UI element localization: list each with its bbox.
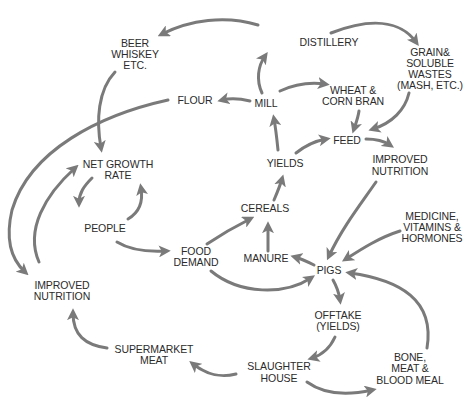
node-wheat-bran: WHEAT &CORN BRAN [322, 84, 384, 107]
node-label-line: DISTILLERY [300, 36, 359, 48]
arrow-net-growth-rate-to-people [79, 178, 92, 203]
node-label-line: PEOPLE [84, 222, 126, 234]
arrow-medicine-to-pigs [346, 231, 400, 259]
node-yields: YIELDS [267, 157, 304, 169]
node-label-line: MILL [255, 97, 278, 109]
node-food-demand: FOODDEMAND [174, 245, 219, 268]
node-label-line: MEAT [140, 354, 169, 366]
node-distillery: DISTILLERY [300, 36, 359, 48]
node-slaughter-house: SLAUGHTERHOUSE [247, 360, 311, 384]
node-beer: BEERWHISKEYETC. [111, 37, 159, 71]
arrow-pigs-to-manure [295, 257, 314, 265]
node-label-line: FLOUR [177, 94, 213, 106]
node-label-line: HOUSE [261, 372, 298, 384]
node-feed: FEED [333, 134, 361, 146]
arrow-people-to-food-demand [117, 242, 166, 251]
node-label-line: SLAUGHTER [247, 360, 311, 372]
node-label-line: MANURE [244, 252, 289, 264]
node-label-line: DEMAND [174, 256, 219, 268]
arrow-food-demand-to-pigs [211, 271, 311, 290]
arrow-supermarket-meat-to-improved-nutrition-left [73, 313, 107, 348]
node-label-line: HORMONES [401, 232, 462, 244]
node-label-line: BLOOD MEAL [376, 374, 444, 386]
node-label-line: PIGS [317, 264, 342, 276]
arrow-cereals-to-yields [274, 179, 282, 200]
node-label-line: RATE [105, 169, 132, 181]
arrow-feed-to-improved-nutrition-right [366, 139, 390, 145]
node-people: PEOPLE [84, 222, 126, 234]
node-mill: MILL [255, 97, 278, 109]
node-cereals: CEREALS [241, 202, 289, 214]
node-flour: FLOUR [177, 94, 213, 106]
node-improved-nutrition-left: IMPROVEDNUTRITION [34, 279, 90, 302]
node-label-line: (YIELDS) [316, 320, 360, 332]
node-medicine: MEDICINE,VITAMINS &HORMONES [401, 210, 462, 244]
node-label-line: CEREALS [241, 202, 289, 214]
arrow-offtake-to-slaughter-house [312, 337, 335, 358]
arrow-beer-to-net-growth-rate [99, 72, 115, 148]
node-pigs: PIGS [317, 264, 342, 276]
labels-layer: BEERWHISKEYETC.DISTILLERYGRAIN&SOLUBLEWA… [34, 36, 463, 386]
arrows-layer [9, 20, 428, 393]
node-label-line: IMPROVED [372, 153, 428, 165]
node-improved-nutrition-right: IMPROVEDNUTRITION [372, 153, 428, 177]
arrow-mill-to-wheat-bran [280, 83, 325, 91]
node-label-line: CORN BRAN [322, 95, 384, 107]
node-offtake: OFFTAKE(YIELDS) [315, 309, 362, 332]
arrow-mill-to-distillery [258, 56, 265, 93]
node-label-line: ETC. [123, 59, 147, 71]
arrow-mill-to-flour [222, 99, 250, 101]
node-label-line: MEAT & [391, 362, 429, 374]
arrow-slaughter-house-to-supermarket-meat [193, 364, 236, 376]
node-label-line: (MASH, ETC.) [397, 79, 463, 91]
node-bone-meal: BONE,MEAT &BLOOD MEAL [376, 351, 444, 386]
arrow-slaughter-house-to-bone-meal [307, 382, 372, 393]
node-grain-wastes: GRAIN&SOLUBLEWASTES(MASH, ETC.) [397, 46, 463, 91]
node-supermarket-meat: SUPERMARKETMEAT [115, 343, 195, 366]
arrow-food-demand-to-cereals [207, 219, 250, 244]
arrow-wheat-bran-to-feed [354, 111, 359, 129]
arrow-people-to-net-growth-rate [128, 188, 142, 219]
arrow-distillery-to-beer [162, 20, 258, 34]
arrow-pigs-to-offtake [333, 280, 340, 300]
pig-production-cycle-diagram: BEERWHISKEYETC.DISTILLERYGRAIN&SOLUBLEWA… [0, 0, 476, 406]
node-label-line: NUTRITION [372, 165, 428, 177]
arrow-flour-to-improved-nutrition-left [9, 100, 168, 272]
arrow-bone-meal-to-pigs [350, 273, 428, 348]
node-label-line: NUTRITION [34, 290, 90, 302]
node-manure: MANURE [244, 252, 289, 264]
arrow-yields-to-feed [296, 139, 326, 153]
node-label-line: FEED [333, 134, 361, 146]
arrow-improved-nutrition-left-to-net-growth-rate [34, 168, 75, 262]
node-label-line: YIELDS [267, 157, 304, 169]
arrow-yields-to-mill [274, 119, 278, 150]
